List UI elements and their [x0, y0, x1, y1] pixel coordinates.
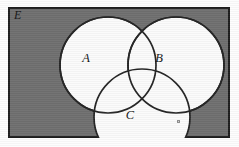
venn-circles-svg: A B C — [8, 7, 230, 138]
venn-diagram-figure: A B C E — [0, 0, 239, 147]
scan-speck-artifact — [177, 120, 180, 123]
set-label-b: B — [155, 51, 163, 65]
universal-set-label: E — [14, 9, 22, 21]
set-label-a: A — [81, 51, 90, 65]
venn-circle-group — [60, 17, 224, 138]
set-label-c: C — [126, 108, 135, 122]
